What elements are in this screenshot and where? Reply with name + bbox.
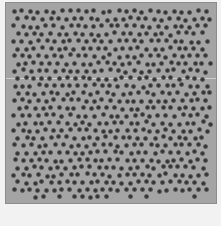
lattice-dot xyxy=(132,8,137,13)
lattice-dot xyxy=(89,32,94,37)
lattice-dot xyxy=(144,179,149,184)
lattice-dot xyxy=(20,53,25,58)
lattice-dot xyxy=(143,150,148,155)
lattice-dot xyxy=(11,128,16,133)
lattice-dot xyxy=(95,136,100,141)
lattice-dot xyxy=(121,17,126,22)
lattice-dot xyxy=(163,171,168,176)
lattice-dot xyxy=(33,106,38,111)
lattice-dot xyxy=(136,16,141,21)
lattice-dot xyxy=(27,99,32,104)
lattice-dot xyxy=(140,158,145,163)
lattice-dot xyxy=(113,77,118,82)
lattice-dot xyxy=(132,23,137,28)
lattice-dot xyxy=(87,164,92,169)
lattice-dot xyxy=(120,62,125,67)
lattice-dot xyxy=(115,188,120,193)
lattice-dot xyxy=(191,106,196,111)
lattice-dot xyxy=(39,61,44,66)
lattice-dot xyxy=(128,46,133,51)
lattice-dot xyxy=(24,105,29,110)
lattice-dot xyxy=(76,38,81,43)
lattice-dot xyxy=(204,114,209,119)
lattice-dot xyxy=(125,128,130,133)
lattice-dot xyxy=(76,97,81,102)
lattice-dot xyxy=(197,127,202,132)
lattice-dot xyxy=(165,83,170,88)
lattice-dot xyxy=(61,97,66,102)
lattice-dot xyxy=(84,9,89,14)
lattice-dot xyxy=(92,99,97,104)
lattice-dot xyxy=(129,151,134,156)
lattice-dot xyxy=(60,83,65,88)
lattice-dot xyxy=(187,187,192,192)
lattice-dot xyxy=(39,32,44,37)
lattice-dot xyxy=(103,134,108,139)
lattice-dot xyxy=(28,40,33,45)
lattice-dot xyxy=(125,99,130,104)
lattice-dot xyxy=(101,142,106,147)
lattice-dot xyxy=(168,150,173,155)
lattice-dot xyxy=(192,149,197,154)
lattice-dot xyxy=(177,77,182,82)
lattice-dot xyxy=(47,76,52,81)
lattice-dot xyxy=(151,62,156,67)
lattice-dot xyxy=(143,136,148,141)
lattice-dot xyxy=(132,142,137,147)
lattice-dot xyxy=(153,47,158,52)
lattice-dot xyxy=(140,172,145,177)
lattice-dot xyxy=(148,99,153,104)
lattice-dot xyxy=(140,24,145,29)
lattice-dot xyxy=(95,17,100,22)
lattice-dot xyxy=(67,187,72,192)
lattice-dot xyxy=(131,84,136,89)
lattice-dot xyxy=(36,113,41,118)
lattice-dot xyxy=(179,10,184,15)
lattice-dot xyxy=(205,129,210,134)
lattice-dot xyxy=(16,122,21,127)
lattice-dot xyxy=(203,158,208,163)
lattice-dot xyxy=(23,61,28,66)
lattice-dot xyxy=(173,39,178,44)
lattice-dot xyxy=(171,158,176,163)
lattice-dot xyxy=(37,82,42,87)
lattice-dot xyxy=(115,144,120,149)
lattice-dot xyxy=(136,90,141,95)
lattice-dot xyxy=(104,105,109,110)
lattice-dot xyxy=(129,107,134,112)
lattice-dot xyxy=(51,10,56,15)
lattice-dot xyxy=(179,24,184,29)
lattice-dot xyxy=(81,46,86,51)
lattice-dot xyxy=(11,39,16,44)
lattice-dot xyxy=(196,8,201,13)
lattice-dot xyxy=(161,105,166,110)
lattice-dot xyxy=(104,32,109,37)
lattice-dot xyxy=(71,47,76,52)
lattice-dot xyxy=(132,187,137,192)
lattice-dot xyxy=(105,18,110,23)
lattice-dot xyxy=(55,61,60,66)
lattice-dot xyxy=(192,180,197,185)
lattice-dot xyxy=(111,165,116,170)
lattice-dot xyxy=(81,62,86,67)
lattice-dot xyxy=(155,113,160,118)
lattice-dot xyxy=(27,187,32,192)
lattice-dot xyxy=(160,180,165,185)
lattice-dot xyxy=(113,47,118,52)
lattice-dot xyxy=(64,32,69,37)
lattice-dot xyxy=(44,54,49,59)
lattice-dot xyxy=(173,142,178,147)
lattice-dot xyxy=(160,149,165,154)
lattice-dot xyxy=(55,91,60,96)
lattice-dot xyxy=(92,172,97,177)
lattice-dot xyxy=(189,98,194,103)
lattice-dot xyxy=(155,143,160,148)
lattice-dot xyxy=(35,188,40,193)
lattice-dot xyxy=(48,150,53,155)
lattice-dot xyxy=(119,120,124,125)
lattice-dot xyxy=(163,10,168,15)
lattice-dot xyxy=(163,127,168,132)
lattice-dot xyxy=(32,92,37,97)
lattice-dot xyxy=(76,23,81,28)
lattice-dot xyxy=(168,179,173,184)
